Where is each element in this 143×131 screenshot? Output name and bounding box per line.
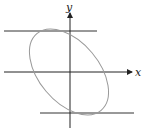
x-axis-label: x: [135, 66, 142, 79]
diagram-canvas: x y: [0, 0, 143, 131]
y-axis-label: y: [65, 1, 73, 14]
